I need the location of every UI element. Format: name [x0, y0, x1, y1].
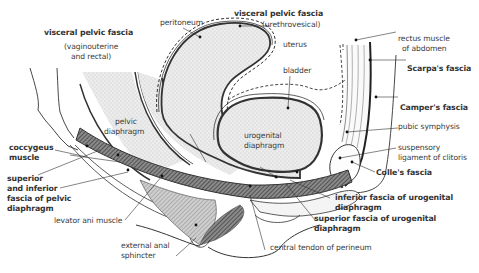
label-visceral-urethrovesical-sub: (urethrovesical): [262, 20, 320, 30]
label-uterus: uterus: [283, 40, 307, 50]
label-colles-fascia: Colle's fascia: [376, 168, 432, 178]
label-coccygeus-2: muscle: [9, 153, 39, 163]
label-sup-inf-fascia-4: diaphragm: [7, 204, 54, 214]
label-levator-ani: levator ani muscle: [54, 216, 122, 226]
label-visceral-urethrovesical-title: visceral pelvic fascia: [234, 9, 323, 19]
label-visceral-vaginouterine-sub2: and rectal): [71, 52, 111, 62]
label-sup-inf-fascia-3: fascia of pelvic: [7, 194, 71, 204]
label-superior-fascia-uro-2: diaphragm: [314, 224, 361, 234]
label-sup-inf-fascia-1: superior: [7, 174, 43, 184]
label-sup-inf-fascia-2: and inferior: [7, 184, 58, 194]
label-suspensory-1: suspensory: [398, 143, 440, 153]
label-visceral-vaginouterine-sub1: (vaginouterine: [64, 42, 118, 52]
label-pubic-symphysis: pubic symphysis: [398, 122, 460, 132]
label-external-anal-2: sphincter: [121, 251, 156, 261]
label-campers-fascia: Camper's fascia: [400, 103, 468, 113]
label-visceral-vaginouterine-title: visceral pelvic fascia: [44, 28, 133, 38]
label-urogenital-diaphragm-1: urogenital: [244, 131, 282, 141]
label-coccygeus-1: coccygeus: [9, 143, 53, 153]
label-inferior-fascia-uro-1: inferior fascia of urogenital: [335, 193, 453, 203]
label-bladder: bladder: [283, 66, 311, 76]
label-external-anal-1: external anal: [121, 241, 170, 251]
label-peritoneum: peritoneum: [160, 18, 203, 28]
label-inferior-fascia-uro-2: diaphragm: [335, 203, 382, 213]
label-superior-fascia-uro-1: superior fascia of urogenital: [314, 214, 436, 224]
label-central-tendon: central tendon of perineum: [270, 243, 372, 253]
label-scarpas-fascia: Scarpa's fascia: [407, 64, 471, 74]
label-pelvic-diaphragm-2: diaphragm: [104, 127, 144, 137]
label-rectus-2: of abdomen: [402, 44, 447, 54]
label-pelvic-diaphragm-1: pelvic: [115, 117, 137, 127]
coccyx-shape: [30, 68, 78, 150]
label-urogenital-diaphragm-2: diaphragm: [244, 141, 284, 151]
label-rectus-1: rectus muscle: [398, 34, 450, 44]
label-suspensory-2: ligament of clitoris: [398, 153, 467, 163]
